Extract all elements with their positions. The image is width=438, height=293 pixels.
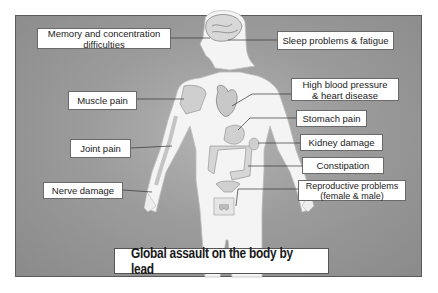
- label-joint-pain: Joint pain: [70, 139, 131, 158]
- label-memory: Memory and concentration difficulties: [37, 28, 171, 49]
- label-reproductive: Reproductive problems (female & male): [298, 180, 406, 201]
- label-high-blood-pressure: High blood pressure & heart disease: [291, 78, 399, 101]
- label-nerve-damage: Nerve damage: [43, 182, 123, 199]
- label-kidney-damage: Kidney damage: [300, 134, 383, 151]
- label-muscle-pain: Muscle pain: [68, 91, 137, 110]
- label-constipation: Constipation: [302, 157, 384, 174]
- diagram-title: Global assault on the body by lead: [131, 245, 312, 277]
- kidney-icon: [249, 138, 259, 150]
- body-silhouette: [147, 11, 310, 278]
- stomach-icon: [224, 125, 244, 144]
- label-stomach-pain: Stomach pain: [296, 110, 367, 127]
- label-sleep: Sleep problems & fatigue: [277, 31, 394, 50]
- diagram-title-banner: Global assault on the body by lead: [114, 248, 329, 274]
